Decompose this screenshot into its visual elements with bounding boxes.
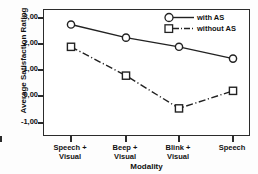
y-tick-label: 2,00 [12,39,38,47]
chart-figure: Average Satisfaction Rating 3,00 2,00 1,… [0,0,258,174]
data-point-marker [122,34,129,41]
data-point-marker [122,72,129,79]
data-point-marker [229,55,236,62]
legend-key-circle-solid [163,12,195,23]
series-line-without-as [71,47,233,109]
y-tick-label: 1,00 [12,65,38,73]
x-tick-mark [125,136,127,142]
x-tick-mark [232,136,234,142]
data-point-marker [229,87,236,94]
legend-key-square-dashdot [163,23,195,34]
x-tick-label-line1: Speech [197,143,258,152]
legend-label: without AS [195,24,236,33]
x-tick-mark [178,136,180,142]
y-tick-label: 3,00 [12,13,38,21]
data-point-marker [175,105,182,112]
x-axis-title: Modality [43,162,250,171]
x-tick-label-line2: Visual [143,152,213,161]
legend-label: with AS [195,13,224,22]
chart-legend: with AS without AS [163,12,249,34]
data-point-marker [175,43,182,50]
legend-item-with-as: with AS [163,12,249,23]
data-point-marker [67,43,74,50]
x-tick-mark [0,136,2,142]
data-point-marker [67,21,74,28]
x-tick-mark [70,136,72,142]
y-tick-label: -1,00 [12,118,38,126]
legend-item-without-as: without AS [163,23,249,34]
x-tick-label: Speech [197,143,258,152]
y-tick-label: 0,00 [12,91,38,99]
